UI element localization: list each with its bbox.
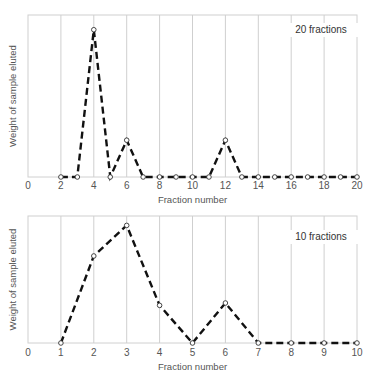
x-tick-label: 9 (321, 347, 327, 358)
x-axis-label: Fraction number (158, 361, 227, 372)
data-point (59, 175, 64, 180)
data-point (92, 254, 97, 259)
data-point (322, 341, 327, 346)
data-point (355, 175, 360, 180)
x-tick-label: 6 (223, 347, 229, 358)
chart-10-fractions: 012345678910Fraction numberWeight of sam… (7, 216, 363, 372)
annotation-label: 10 fractions (295, 231, 347, 242)
data-point (108, 175, 113, 180)
data-point (256, 341, 261, 346)
x-tick-label: 14 (253, 180, 265, 191)
data-point (75, 175, 80, 180)
data-point (272, 175, 277, 180)
data-point (223, 301, 228, 306)
x-tick-label: 8 (288, 347, 294, 358)
y-axis-label: Weight of sample eluted (7, 229, 18, 331)
data-point (157, 303, 162, 308)
data-point (124, 138, 129, 143)
x-tick-label: 20 (351, 180, 363, 191)
x-tick-label: 2 (58, 180, 64, 191)
data-point (141, 175, 146, 180)
x-tick-label: 4 (157, 347, 163, 358)
fraction-charts: 02468101214161820Fraction numberWeight o… (0, 0, 373, 383)
data-point (59, 341, 64, 346)
data-point (338, 175, 343, 180)
data-point (305, 175, 310, 180)
x-tick-label: 2 (91, 347, 97, 358)
annotation-label: 20 fractions (295, 24, 347, 35)
data-point (322, 175, 327, 180)
x-tick-label: 10 (187, 180, 199, 191)
y-axis-label: Weight of sample eluted (7, 45, 18, 147)
data-point (289, 341, 294, 346)
x-tick-label: 1 (58, 347, 64, 358)
chart-20-fractions: 02468101214161820Fraction numberWeight o… (7, 15, 363, 205)
x-tick-label: 8 (157, 180, 163, 191)
x-tick-label: 16 (286, 180, 298, 191)
x-tick-label: 7 (256, 347, 262, 358)
data-point (223, 138, 228, 143)
data-point (190, 175, 195, 180)
x-tick-label: 5 (190, 347, 196, 358)
x-axis-label: Fraction number (158, 194, 227, 205)
x-tick-label: 10 (351, 347, 363, 358)
x-tick-label: 0 (25, 180, 31, 191)
data-point (174, 175, 179, 180)
data-point (256, 175, 261, 180)
x-tick-label: 0 (25, 347, 31, 358)
x-tick-label: 4 (91, 180, 97, 191)
data-point (190, 341, 195, 346)
data-point (92, 27, 97, 32)
data-point (157, 175, 162, 180)
x-tick-label: 12 (220, 180, 232, 191)
data-point (240, 175, 245, 180)
data-point (207, 175, 212, 180)
data-point (124, 223, 129, 228)
x-tick-label: 6 (124, 180, 130, 191)
data-point (289, 175, 294, 180)
x-tick-label: 3 (124, 347, 130, 358)
data-point (355, 341, 360, 346)
x-tick-label: 18 (319, 180, 331, 191)
